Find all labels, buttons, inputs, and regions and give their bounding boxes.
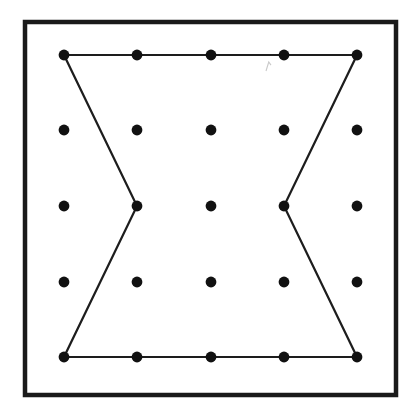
peg-r2-c4[interactable] — [352, 201, 363, 212]
peg-r0-c0[interactable] — [59, 50, 70, 61]
peg-r3-c4[interactable] — [352, 277, 363, 288]
peg-r0-c1[interactable] — [132, 50, 143, 61]
peg-r0-c2[interactable] — [206, 50, 217, 61]
peg-r0-c3[interactable] — [279, 50, 290, 61]
peg-r2-c1[interactable] — [132, 201, 143, 212]
peg-r4-c2[interactable] — [206, 352, 217, 363]
peg-r0-c4[interactable] — [352, 50, 363, 61]
peg-r2-c3[interactable] — [279, 201, 290, 212]
peg-r4-c0[interactable] — [59, 352, 70, 363]
peg-r1-c0[interactable] — [59, 125, 70, 136]
peg-r3-c3[interactable] — [279, 277, 290, 288]
peg-r2-c0[interactable] — [59, 201, 70, 212]
peg-r2-c2[interactable] — [206, 201, 217, 212]
peg-r4-c1[interactable] — [132, 352, 143, 363]
peg-r1-c2[interactable] — [206, 125, 217, 136]
peg-r4-c4[interactable] — [352, 352, 363, 363]
peg-r3-c1[interactable] — [132, 277, 143, 288]
peg-r1-c4[interactable] — [352, 125, 363, 136]
geoboard-canvas — [0, 0, 409, 410]
peg-r1-c3[interactable] — [279, 125, 290, 136]
peg-r3-c0[interactable] — [59, 277, 70, 288]
peg-r1-c1[interactable] — [132, 125, 143, 136]
peg-r3-c2[interactable] — [206, 277, 217, 288]
geoboard-figure — [0, 0, 409, 410]
peg-r4-c3[interactable] — [279, 352, 290, 363]
